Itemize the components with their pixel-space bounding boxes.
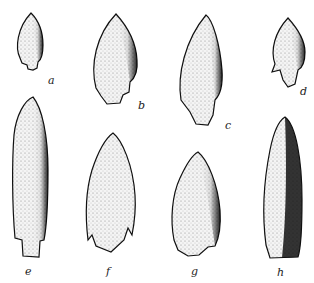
label-h: h bbox=[277, 266, 284, 279]
point-c bbox=[180, 15, 222, 125]
label-c: c bbox=[225, 119, 231, 132]
point-b bbox=[94, 14, 137, 104]
point-g bbox=[172, 152, 220, 256]
label-d: d bbox=[300, 85, 307, 98]
label-e: e bbox=[25, 265, 32, 278]
point-d bbox=[272, 18, 305, 87]
point-a bbox=[18, 13, 43, 70]
point-e bbox=[13, 97, 48, 257]
point-f bbox=[86, 133, 135, 252]
label-g: g bbox=[191, 265, 198, 278]
figure-projectile-points: a b c d e f g h bbox=[0, 0, 314, 283]
point-h bbox=[264, 117, 302, 258]
label-a: a bbox=[48, 74, 55, 87]
label-b: b bbox=[138, 99, 145, 112]
points-illustration bbox=[0, 0, 314, 283]
label-f: f bbox=[106, 265, 110, 278]
